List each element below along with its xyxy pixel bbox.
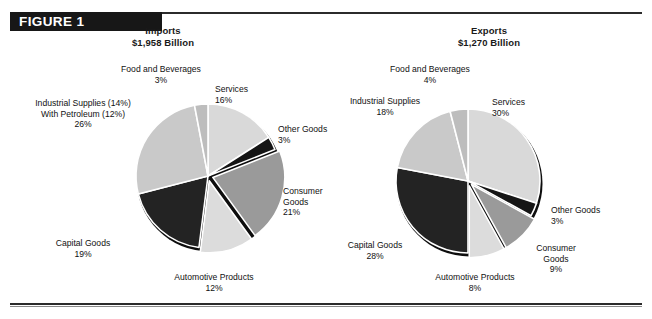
imports-chart-title: Imports $1,958 Billion (0, 25, 326, 48)
label-name2: Goods (283, 197, 349, 208)
label-name: Services (215, 84, 305, 95)
label-name: Food and Beverages (86, 64, 236, 75)
label-name: Industrial Supplies (14%) (18, 98, 148, 109)
exports-chart-title: Exports $1,270 Billion (326, 25, 652, 48)
imports-label-services: Services 16% (215, 84, 305, 105)
label-pct: 30% (492, 108, 572, 119)
imports-label-food-and-beverages: Food and Beverages 3% (86, 64, 236, 85)
label-name: Other Goods (551, 205, 637, 216)
pie-exports-svg (392, 105, 544, 257)
bottom-divider (10, 303, 642, 305)
label-name2: With Petroleum (12%) (18, 109, 148, 120)
label-pct: 21% (283, 207, 349, 218)
exports-label-industrial-supplies: Industrial Supplies 18% (322, 96, 448, 117)
imports-label-other-goods: Other Goods 3% (278, 124, 348, 145)
label-pct: 4% (345, 75, 515, 86)
pie-chart-exports (392, 105, 544, 257)
label-pct: 3% (551, 216, 637, 227)
exports-subtitle: $1,270 Billion (326, 37, 652, 49)
label-name: Automotive Products (148, 272, 280, 283)
exports-label-services: Services 30% (492, 97, 572, 118)
label-name2: Goods (521, 254, 591, 265)
bottom-divider-secondary (10, 306, 642, 307)
label-name: Food and Beverages (345, 64, 515, 75)
label-pct: 18% (322, 107, 448, 118)
exports-label-other-goods: Other Goods 3% (551, 205, 637, 226)
exports-title: Exports (326, 25, 652, 37)
label-pct: 28% (330, 251, 420, 262)
label-pct: 3% (278, 135, 348, 146)
label-pct: 8% (410, 283, 540, 294)
label-name: Consumer (521, 243, 591, 254)
label-name: Capital Goods (38, 238, 128, 249)
label-pct: 12% (148, 283, 280, 294)
label-name: Industrial Supplies (322, 96, 448, 107)
figure-root: FIGURE 1 Imports $1,958 Billion Exports … (0, 0, 652, 319)
label-name: Capital Goods (330, 240, 420, 251)
label-name: Consumer (283, 186, 349, 197)
pie-imports-svg (132, 100, 284, 252)
label-name: Other Goods (278, 124, 348, 135)
pie-chart-imports (132, 100, 284, 252)
imports-label-automotive-products: Automotive Products 12% (148, 272, 280, 293)
imports-label-consumer-goods: Consumer Goods 21% (283, 186, 349, 218)
label-name: Automotive Products (410, 272, 540, 283)
exports-label-food-and-beverages: Food and Beverages 4% (345, 64, 515, 85)
imports-subtitle: $1,958 Billion (0, 37, 326, 49)
pie-exports-slices (396, 109, 540, 258)
label-pct: 3% (86, 75, 236, 86)
exports-label-automotive-products: Automotive Products 8% (410, 272, 540, 293)
label-pct: 16% (215, 95, 305, 106)
label-pct: 19% (38, 249, 128, 260)
label-name: Services (492, 97, 572, 108)
imports-label-capital-goods: Capital Goods 19% (38, 238, 128, 259)
exports-label-consumer-goods: Consumer Goods 9% (521, 243, 591, 275)
imports-label-industrial-supplies: Industrial Supplies (14%) With Petroleum… (18, 98, 148, 130)
imports-title: Imports (0, 25, 326, 37)
label-pct: 26% (18, 119, 148, 130)
exports-label-capital-goods: Capital Goods 28% (330, 240, 420, 261)
